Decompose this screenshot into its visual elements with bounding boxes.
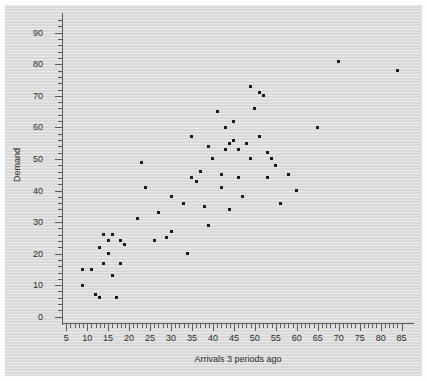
x-axis-minor-tick — [96, 324, 97, 328]
scatter-point — [170, 195, 173, 198]
x-axis-minor-tick — [305, 324, 306, 328]
scatter-point — [241, 195, 244, 198]
x-axis-minor-tick — [355, 324, 356, 328]
y-axis-title: Demand — [12, 130, 22, 200]
y-axis-major-tick — [55, 64, 62, 65]
scatter-point — [157, 211, 160, 214]
x-axis-minor-tick — [322, 324, 323, 328]
scatter-point — [266, 151, 269, 154]
scatter-point — [199, 170, 202, 173]
x-axis-minor-tick — [351, 324, 352, 328]
x-axis-minor-tick — [79, 324, 80, 328]
scatter-point — [190, 176, 193, 179]
x-axis-minor-tick — [309, 324, 310, 328]
scatter-point — [216, 110, 219, 113]
scatter-point — [119, 262, 122, 265]
x-axis-minor-tick — [293, 324, 294, 328]
y-axis-tick-label: 50 — [5, 155, 43, 164]
scatter-point — [190, 135, 193, 138]
x-axis-minor-tick — [226, 324, 227, 328]
y-axis-major-tick — [55, 285, 62, 286]
x-axis-minor-tick — [167, 324, 168, 328]
x-axis-major-tick — [276, 324, 277, 331]
x-axis-minor-tick — [301, 324, 302, 328]
scatter-point — [279, 202, 282, 205]
scatter-point — [111, 274, 114, 277]
scatter-point — [237, 148, 240, 151]
scatter-plot-figure: 0102030405060708090 51015202530354045505… — [0, 0, 427, 381]
x-axis-minor-tick — [154, 324, 155, 328]
scatter-point — [262, 94, 265, 97]
x-axis-major-tick — [66, 324, 67, 331]
x-axis-minor-tick — [146, 324, 147, 328]
scatter-point — [266, 176, 269, 179]
x-axis-minor-tick — [385, 324, 386, 328]
x-axis-minor-tick — [272, 324, 273, 328]
x-axis-minor-tick — [125, 324, 126, 328]
scatter-point — [220, 173, 223, 176]
scatter-point — [220, 186, 223, 189]
x-axis-minor-tick — [137, 324, 138, 328]
x-axis-minor-tick — [288, 324, 289, 328]
y-axis-major-tick — [55, 222, 62, 223]
x-axis-major-tick — [360, 324, 361, 331]
x-axis-minor-tick — [389, 324, 390, 328]
x-axis-title: Arrivals 3 periods ago — [62, 354, 414, 364]
y-axis-tick-label: 60 — [5, 123, 43, 132]
scatter-point — [337, 60, 340, 63]
scatter-point — [245, 142, 248, 145]
scatter-point — [232, 139, 235, 142]
y-axis-major-tick — [55, 254, 62, 255]
scatter-point — [144, 186, 147, 189]
scatter-point — [253, 107, 256, 110]
x-axis-minor-tick — [121, 324, 122, 328]
x-axis-minor-tick — [280, 324, 281, 328]
y-axis-major-tick — [55, 159, 62, 160]
x-axis-minor-tick — [376, 324, 377, 328]
x-axis-minor-tick — [326, 324, 327, 328]
scatter-point — [258, 91, 261, 94]
scatter-point — [224, 148, 227, 151]
scatter-point — [224, 126, 227, 129]
scatter-point — [123, 243, 126, 246]
x-axis-major-tick — [108, 324, 109, 331]
chart-canvas: 0102030405060708090 51015202530354045505… — [5, 5, 422, 376]
scatter-point — [211, 157, 214, 160]
scatter-point — [111, 233, 114, 236]
x-axis-minor-tick — [91, 324, 92, 328]
x-axis-minor-tick — [230, 324, 231, 328]
x-axis-minor-tick — [393, 324, 394, 328]
x-axis-minor-tick — [397, 324, 398, 328]
x-axis-minor-tick — [83, 324, 84, 328]
x-axis-minor-tick — [158, 324, 159, 328]
y-axis-major-tick — [55, 96, 62, 97]
x-axis-minor-tick — [347, 324, 348, 328]
x-axis-major-tick — [402, 324, 403, 331]
y-axis-tick-label: 90 — [5, 29, 43, 38]
scatter-point — [119, 239, 122, 242]
x-axis-minor-tick — [112, 324, 113, 328]
x-axis-minor-tick — [238, 324, 239, 328]
x-axis-minor-tick — [133, 324, 134, 328]
x-axis-minor-tick — [70, 324, 71, 328]
x-axis-minor-tick — [246, 324, 247, 328]
x-axis-minor-tick — [284, 324, 285, 328]
scatter-point — [232, 120, 235, 123]
x-axis-minor-tick — [314, 324, 315, 328]
x-axis-minor-tick — [267, 324, 268, 328]
y-axis-tick-label: 30 — [5, 218, 43, 227]
x-axis-minor-tick — [184, 324, 185, 328]
scatter-point — [207, 224, 210, 227]
x-axis-minor-tick — [263, 324, 264, 328]
x-axis-minor-tick — [163, 324, 164, 328]
x-axis-tick-label: 85 — [390, 334, 414, 343]
scatter-point — [270, 157, 273, 160]
scatter-point — [316, 126, 319, 129]
y-axis-tick-label: 0 — [5, 313, 43, 322]
x-axis-minor-tick — [179, 324, 180, 328]
x-axis-minor-tick — [259, 324, 260, 328]
x-axis-minor-tick — [188, 324, 189, 328]
x-axis-major-tick — [297, 324, 298, 331]
x-axis-major-tick — [213, 324, 214, 331]
scatter-point — [165, 236, 168, 239]
